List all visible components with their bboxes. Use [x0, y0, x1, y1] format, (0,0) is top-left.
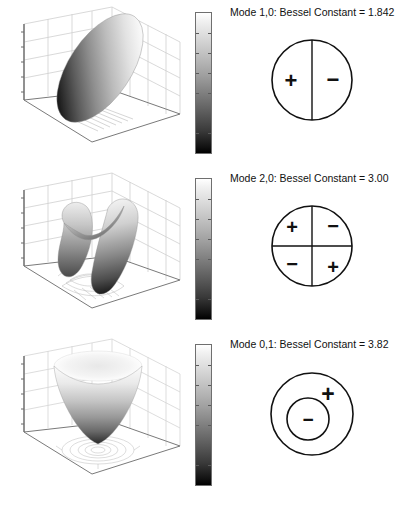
- z-axis: [21, 24, 24, 100]
- surface-plot-mode-0-1: [12, 334, 188, 496]
- bessel-modes-figure: Mode 1,0: Bessel Constant = 1.842 + −: [0, 0, 419, 512]
- z-axis: [21, 190, 24, 266]
- figure-caption: [56, 500, 416, 512]
- sign-plus: +: [285, 68, 298, 93]
- sign-minus-inner: −: [302, 409, 313, 430]
- mode-title-2-0: Mode 2,0: Bessel Constant = 3.00: [230, 172, 418, 185]
- surface-plot-mode-1-0: [12, 2, 188, 164]
- surface-mesh-mode-0-1: [54, 351, 142, 444]
- nodal-diagram-mode-0-1: + −: [258, 362, 368, 462]
- sign-plus-upper-left: +: [286, 216, 298, 238]
- mode-title-1-0: Mode 1,0: Bessel Constant = 1.842: [230, 6, 418, 19]
- mode-row-3: Mode 0,1: Bessel Constant = 3.82 + −: [0, 332, 419, 498]
- sign-plus-outer: +: [321, 381, 334, 407]
- colorbar-mode-0-1: [195, 344, 212, 486]
- mode-row-1: Mode 1,0: Bessel Constant = 1.842 + −: [0, 0, 419, 166]
- colorbar-ticks: [196, 179, 211, 319]
- mode-title-0-1: Mode 0,1: Bessel Constant = 3.82: [230, 338, 418, 351]
- sign-plus-lower-right: +: [327, 256, 339, 278]
- nodal-diagram-mode-2-0: + − − +: [258, 196, 368, 296]
- mode-row-2: Mode 2,0: Bessel Constant = 3.00 + − − +: [0, 166, 419, 332]
- z-axis: [21, 356, 24, 432]
- nodal-diagram-mode-1-0: + −: [258, 30, 368, 130]
- colorbar-mode-2-0: [195, 178, 212, 320]
- surface-plot-mode-2-0: [12, 168, 188, 330]
- colorbar-ticks: [196, 345, 211, 485]
- colorbar-ticks: [196, 13, 211, 153]
- sign-minus-lower-left: −: [286, 253, 298, 275]
- colorbar-mode-1-0: [195, 12, 212, 154]
- sign-minus-upper-right: −: [327, 215, 339, 237]
- sign-minus: −: [327, 67, 340, 92]
